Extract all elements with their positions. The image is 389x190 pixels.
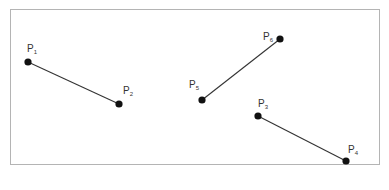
label-p2: P2 (123, 85, 134, 97)
label-p6: P6 (263, 31, 274, 43)
label-p4: P4 (348, 144, 359, 156)
labels-group: P1P2P3P4P5P6 (27, 31, 359, 156)
point-p5 (198, 96, 205, 103)
line-segments-diagram: P1P2P3P4P5P6 (0, 0, 389, 190)
label-p3: P3 (258, 98, 269, 110)
points-group (24, 35, 349, 164)
point-p6 (276, 35, 283, 42)
segment-p5-p6 (202, 39, 280, 100)
label-p5: P5 (189, 79, 200, 91)
point-p1 (24, 58, 31, 65)
point-p4 (342, 157, 349, 164)
point-p2 (115, 100, 122, 107)
segment-p1-p2 (28, 62, 119, 104)
segment-p3-p4 (258, 116, 346, 161)
point-p3 (254, 112, 261, 119)
figure-caption (60, 183, 330, 190)
label-p1: P1 (27, 43, 38, 55)
segments-group (28, 39, 346, 161)
